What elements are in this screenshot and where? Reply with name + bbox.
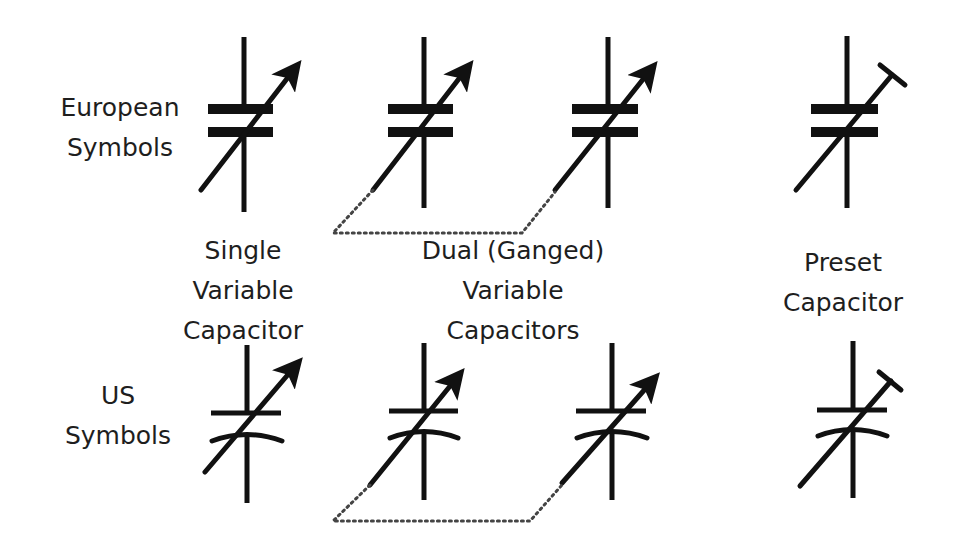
us-symbols-label: US Symbols bbox=[65, 376, 171, 456]
eu-dual-variable-capacitor-b-icon bbox=[555, 37, 652, 208]
preset-label-line-1: Preset bbox=[783, 243, 903, 283]
us-label-line-2: Symbols bbox=[65, 416, 171, 456]
us-single-variable-capacitor-icon bbox=[205, 345, 297, 503]
eu-preset-capacitor-icon bbox=[796, 36, 905, 208]
dual-label-line-1: Dual (Ganged) bbox=[422, 231, 604, 271]
preset-label-line-2: Capacitor bbox=[783, 283, 903, 323]
us-preset-capacitor-icon bbox=[800, 341, 901, 498]
dual-label-line-2: Variable bbox=[422, 271, 604, 311]
dual-label-line-3: Capacitors bbox=[422, 311, 604, 351]
single-variable-capacitor-label: Single Variable Capacitor bbox=[183, 231, 303, 351]
us-dual-variable-capacitor-b-icon bbox=[562, 343, 654, 500]
eu-gang-link bbox=[333, 190, 555, 233]
european-symbols-label: European Symbols bbox=[60, 88, 179, 168]
us-dual-variable-capacitor-a-icon bbox=[370, 343, 459, 500]
us-label-line-1: US bbox=[65, 376, 171, 416]
european-label-line-2: Symbols bbox=[60, 128, 179, 168]
single-label-line-2: Variable bbox=[183, 271, 303, 311]
preset-capacitor-label: Preset Capacitor bbox=[783, 243, 903, 323]
european-label-line-1: European bbox=[60, 88, 179, 128]
single-label-line-3: Capacitor bbox=[183, 311, 303, 351]
us-gang-link bbox=[333, 485, 562, 521]
single-label-line-1: Single bbox=[183, 231, 303, 271]
dual-ganged-capacitors-label: Dual (Ganged) Variable Capacitors bbox=[422, 231, 604, 351]
eu-dual-variable-capacitor-a-icon bbox=[373, 37, 468, 208]
eu-single-variable-capacitor-icon bbox=[201, 37, 296, 212]
